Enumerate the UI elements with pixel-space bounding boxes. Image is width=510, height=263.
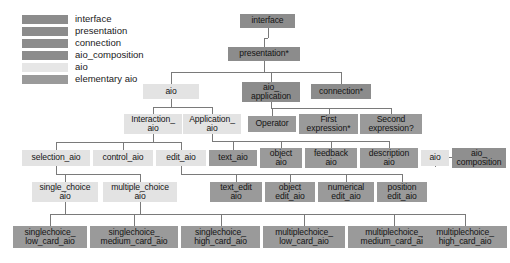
edge-segment: [56, 174, 140, 175]
edge-segment: [435, 166, 436, 167]
node-presentation[interactable]: presentation*: [228, 47, 300, 61]
legend-swatch: [22, 51, 68, 60]
legend-label: aio: [75, 62, 88, 72]
edge-segment: [140, 174, 141, 182]
edge-segment: [271, 72, 272, 82]
legend-label: interface: [75, 14, 111, 24]
edge-segment: [56, 142, 57, 150]
legend-swatch: [22, 15, 68, 24]
edge-segment: [140, 202, 141, 214]
edge-segment: [181, 166, 182, 174]
edge-segment: [181, 174, 402, 175]
edge-segment: [290, 174, 291, 182]
edge-segment: [331, 141, 332, 148]
node-multiplechoice_low_card_aio[interactable]: multiplechoice_ low_card_aio: [263, 226, 345, 248]
edge-segment: [56, 142, 181, 143]
node-connection[interactable]: connection*: [311, 84, 371, 99]
edge-segment: [134, 214, 135, 226]
node-aio_composition[interactable]: aio_ composition: [452, 148, 506, 168]
node-aio_application[interactable]: aio_ application: [242, 82, 300, 102]
legend-label: connection: [75, 38, 121, 48]
node-selection_aio[interactable]: selection_aio: [22, 150, 90, 166]
node-singlechoice_medium_card_aio[interactable]: singlechoice_ medium_card_aio: [90, 226, 178, 248]
edge-segment: [140, 214, 465, 215]
node-control_aio[interactable]: control_aio: [93, 150, 153, 166]
edge-segment: [221, 214, 222, 226]
edge-segment: [212, 107, 213, 114]
node-aio_leaf[interactable]: aio: [421, 150, 449, 166]
node-interface[interactable]: interface: [240, 14, 295, 28]
edge-segment: [212, 134, 213, 141]
node-multiple_choice_aio[interactable]: multiple_choice aio: [103, 182, 177, 202]
edge-segment: [181, 142, 182, 150]
edge-segment: [341, 72, 342, 84]
edge-segment: [212, 141, 389, 142]
edge-segment: [153, 107, 154, 114]
edge-segment: [123, 142, 124, 150]
edge-segment: [402, 174, 403, 182]
node-object_aio[interactable]: object aio: [260, 148, 302, 168]
edge-segment: [271, 108, 391, 109]
node-feedback_aio[interactable]: feedback aio: [305, 148, 357, 168]
edge-segment: [272, 108, 273, 116]
legend-label: presentation: [75, 26, 127, 36]
legend-swatch: [22, 39, 68, 48]
diagram-canvas: interfacepresentationconnectionaio_compo…: [0, 0, 510, 263]
edge-segment: [233, 141, 234, 150]
node-text_aio[interactable]: text_aio: [209, 150, 257, 166]
legend-swatch: [22, 27, 68, 36]
legend-item: presentation: [22, 26, 144, 36]
edge-segment: [171, 72, 172, 84]
edge-segment: [56, 166, 57, 174]
edge-segment: [236, 174, 237, 182]
edge-segment: [268, 28, 269, 38]
node-application_aio[interactable]: Application_ aio: [183, 114, 241, 134]
edge-segment: [171, 72, 341, 73]
node-text_edit_aio[interactable]: text_edit aio: [210, 182, 262, 202]
edge-segment: [304, 214, 305, 226]
edge-segment: [65, 174, 66, 182]
node-singlechoice_low_card_aio[interactable]: singlechoice_ low_card_aio: [13, 226, 87, 248]
edge-segment: [171, 99, 172, 107]
legend-label: aio_composition: [75, 50, 144, 60]
legend-label: elementary aio: [75, 74, 137, 84]
legend-swatch: [22, 63, 68, 72]
node-singlechoice_high_card_aio[interactable]: singlechoice_ high_card_aio: [181, 226, 260, 248]
legend-swatch: [22, 75, 68, 84]
edge-segment: [264, 38, 265, 47]
legend-item: interface: [22, 14, 144, 24]
edge-segment: [153, 134, 154, 142]
node-second_expression[interactable]: Second expression?: [360, 114, 422, 134]
node-edit_aio[interactable]: edit_aio: [156, 150, 206, 166]
legend: interfacepresentationconnectionaio_compo…: [22, 14, 144, 86]
node-position_edit_aio[interactable]: position edit_aio: [377, 182, 427, 202]
legend-item: elementary aio: [22, 74, 144, 84]
edge-segment: [65, 202, 66, 214]
node-interaction_aio[interactable]: Interaction_ aio: [124, 114, 182, 134]
edge-segment: [153, 107, 212, 108]
node-description_aio[interactable]: description aio: [360, 148, 418, 168]
node-numerical_edit_aio[interactable]: numerical edit_aio: [318, 182, 374, 202]
node-single_choice_aio[interactable]: single_choice aio: [32, 182, 98, 202]
node-aio[interactable]: aio: [143, 84, 199, 99]
node-multiplechoice_high_card_aio[interactable]: multiplechoice_ high_card_aio: [423, 226, 507, 248]
edge-segment: [50, 214, 51, 226]
edge-segment: [394, 214, 395, 226]
edge-segment: [281, 141, 282, 148]
node-object_edit_aio[interactable]: object edit_aio: [265, 182, 315, 202]
legend-item: connection: [22, 38, 144, 48]
edge-segment: [389, 141, 390, 148]
node-operator[interactable]: Operator: [248, 116, 296, 132]
legend-item: aio_composition: [22, 50, 144, 60]
legend-item: aio: [22, 62, 144, 72]
edge-segment: [264, 61, 265, 72]
node-first_expression[interactable]: First expression*: [299, 114, 358, 134]
edge-segment: [346, 174, 347, 182]
edge-segment: [465, 214, 466, 226]
